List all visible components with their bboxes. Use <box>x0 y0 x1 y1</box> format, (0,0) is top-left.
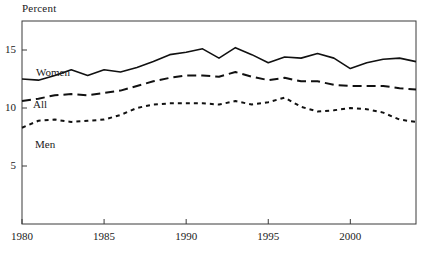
chart-page: Percent 51015 19801985199019952000 Women… <box>0 0 431 256</box>
x-tick-label: 1990 <box>166 230 206 242</box>
series-line-men <box>22 98 416 128</box>
x-tick-label: 2000 <box>330 230 370 242</box>
series-label-men: Men <box>35 138 55 150</box>
series-line-all <box>22 72 416 101</box>
x-tick-label: 1985 <box>84 230 124 242</box>
x-tick-label: 1980 <box>2 230 42 242</box>
plot-frame <box>22 21 416 224</box>
series-label-all: All <box>33 98 47 110</box>
line-chart-plot <box>0 0 431 256</box>
data-series-group <box>22 48 416 128</box>
y-tick-label: 15 <box>0 43 16 55</box>
series-label-women: Women <box>36 66 70 78</box>
y-tick-label: 5 <box>0 159 16 171</box>
x-tick-label: 1995 <box>248 230 288 242</box>
axis-ticks <box>22 50 350 224</box>
series-line-women <box>22 48 416 80</box>
y-tick-label: 10 <box>0 101 16 113</box>
